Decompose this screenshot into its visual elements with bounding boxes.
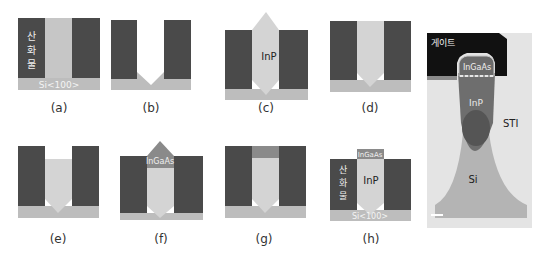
- tem-image: 게이트 InGaAs InP STI Si: [427, 33, 532, 228]
- diagram-g: [225, 146, 306, 218]
- oxide-left: [111, 20, 137, 79]
- inp-label: InP: [261, 51, 276, 62]
- panel-d: [330, 21, 411, 97]
- oxide-label-1: 산: [27, 31, 36, 42]
- caption-c: (c): [246, 101, 286, 115]
- panel-c: InP: [225, 10, 309, 104]
- oxide-left: [120, 156, 147, 213]
- tem-inp-label: InP: [469, 98, 483, 108]
- substrate-label: Si<100>: [39, 80, 79, 90]
- inp-label: InP: [363, 175, 378, 186]
- caption-f: (f): [141, 232, 181, 246]
- tem-gate-edge: [427, 76, 457, 80]
- oxide-right: [72, 18, 100, 78]
- trench-silicon: [45, 18, 72, 78]
- inp-fill: [357, 159, 384, 215]
- panel-b: [111, 20, 193, 94]
- inp-fill-planarized: [357, 21, 384, 87]
- diagram-e: [18, 146, 99, 218]
- caption-a: (a): [39, 101, 79, 115]
- caption-d: (d): [350, 101, 390, 115]
- inp-fill-recessed: [45, 159, 72, 213]
- scale-bar: [431, 214, 443, 216]
- oxide-left: [18, 146, 45, 206]
- tem-ingaas-label: InGaAs: [463, 63, 491, 72]
- inp-fill: [147, 168, 174, 218]
- oxide-label-3: 물: [339, 191, 347, 201]
- tem-micrograph: 게이트 InGaAs InP STI Si: [427, 33, 532, 232]
- oxide-left: [330, 21, 357, 80]
- panel-e: [18, 146, 99, 222]
- diagram-d: [330, 21, 411, 93]
- caption-e: (e): [38, 232, 78, 246]
- oxide-right: [174, 156, 203, 213]
- panel-f: InGaAs: [120, 138, 204, 224]
- oxide-right: [72, 146, 99, 206]
- oxide-right: [279, 146, 306, 206]
- diagram-b: [111, 20, 193, 90]
- caption-h: (h): [351, 232, 391, 246]
- diagram-h: InGaAs 산 화 물 InP Si<100>: [330, 149, 411, 221]
- oxide-left: [225, 146, 252, 206]
- tem-gate-label: 게이트: [431, 38, 455, 48]
- oxide-right: [279, 30, 308, 89]
- ingaas-label: InGaAs: [358, 151, 383, 159]
- oxide-right: [384, 21, 411, 80]
- substrate-label: Si<100>: [352, 212, 388, 221]
- tem-sti-label: STI: [503, 118, 518, 129]
- ingaas-cap-planarized: [252, 146, 279, 158]
- oxide-right: [384, 159, 411, 210]
- oxide-label-2: 화: [339, 178, 347, 188]
- inp-fill: [252, 158, 279, 213]
- panel-a: 산 화 물 Si<100>: [18, 18, 100, 94]
- panel-h: InGaAs 산 화 물 InP Si<100>: [330, 149, 411, 225]
- oxide-label-2: 화: [27, 45, 36, 56]
- ingaas-label: InGaAs: [146, 157, 174, 166]
- oxide-right: [164, 20, 191, 79]
- caption-b: (b): [131, 101, 171, 115]
- panel-g: [225, 146, 306, 222]
- diagram-f: InGaAs: [120, 138, 204, 220]
- diagram-c: InP: [225, 10, 309, 100]
- oxide-label-1: 산: [339, 165, 347, 175]
- caption-g: (g): [244, 232, 284, 246]
- oxide-left: [225, 30, 252, 89]
- tem-inp-core: [462, 110, 490, 146]
- tem-si-label: Si: [468, 174, 477, 185]
- diagram-a: 산 화 물 Si<100>: [18, 18, 100, 90]
- oxide-label-3: 물: [27, 59, 36, 70]
